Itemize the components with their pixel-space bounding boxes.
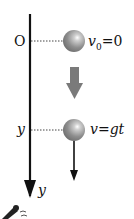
origin-label: O <box>14 34 25 48</box>
axis-arrowhead-icon <box>24 180 36 198</box>
velocity-formula-label: v=gt <box>90 122 124 136</box>
velocity-arrow-icon <box>70 141 78 181</box>
ball-falling <box>63 119 85 141</box>
y-axis <box>24 14 36 198</box>
initial-velocity-var: v <box>88 33 96 49</box>
pencil-icon <box>2 205 27 219</box>
position-label: y <box>17 122 25 136</box>
initial-velocity-eq: =0 <box>102 33 123 49</box>
ball-initial <box>63 30 85 52</box>
initial-velocity-label: v0=0 <box>88 34 122 52</box>
axis-label: y <box>38 183 46 197</box>
motion-arrow-icon <box>66 67 83 99</box>
